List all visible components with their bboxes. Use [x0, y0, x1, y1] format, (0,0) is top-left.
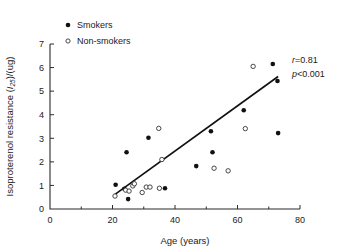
data-point-non-smoker	[113, 194, 117, 198]
y-tick-label: 0	[39, 204, 44, 214]
y-axis-title: Isoproterenol resistance (I25)/(ug)	[4, 57, 16, 197]
y-axis-title-main: Isoproterenol resistance (	[4, 88, 15, 196]
data-point-smoker	[126, 197, 131, 202]
y-axis-title-tail: )/(ug)	[4, 57, 15, 80]
y-tick-label: 4	[39, 110, 44, 120]
y-tick-label: 1	[39, 181, 44, 191]
regression-line	[115, 77, 278, 195]
statistics-annotation: r=0.81p<0.001	[291, 55, 325, 79]
legend: SmokersNon-smokers	[66, 20, 131, 46]
data-point-non-smoker	[148, 185, 152, 189]
x-tick-label: 20	[107, 215, 117, 225]
data-point-smoker	[113, 182, 118, 187]
legend-label: Smokers	[77, 20, 113, 30]
x-tick-label: 0	[47, 215, 52, 225]
annotation-value: =0.81	[295, 55, 318, 65]
data-point-smoker	[271, 62, 276, 67]
data-point-non-smoker	[243, 126, 247, 130]
data-point-non-smoker	[140, 190, 144, 194]
data-point-smoker	[276, 131, 281, 136]
data-point-smoker	[209, 129, 214, 134]
data-point-smoker	[146, 136, 151, 141]
x-axis-title: Age (years)	[160, 235, 209, 246]
x-tick-label: 40	[170, 215, 180, 225]
data-point-smoker	[124, 150, 129, 155]
data-point-smoker	[194, 164, 199, 169]
data-point-non-smoker	[226, 169, 230, 173]
x-tick-label: 80	[295, 215, 305, 225]
data-point-smoker	[210, 150, 215, 155]
data-point-smoker	[163, 186, 168, 191]
data-point-non-smoker	[157, 126, 161, 130]
data-point-non-smoker	[251, 64, 255, 68]
y-tick-label: 2	[39, 157, 44, 167]
x-tick-label: 60	[232, 215, 242, 225]
scatter-plot: 02040608001234567 SmokersNon-smokers r=0…	[0, 0, 341, 252]
annotation-p-value: p<0.001	[291, 69, 325, 79]
annotation-value: <0.001	[297, 69, 325, 79]
legend-marker-non-smokers	[66, 39, 70, 43]
data-point-non-smoker	[127, 189, 131, 193]
data-points	[113, 62, 281, 202]
data-point-smoker	[275, 79, 280, 84]
y-tick-label: 7	[39, 39, 44, 49]
data-point-non-smoker	[157, 186, 161, 190]
data-point-non-smoker	[212, 166, 216, 170]
y-tick-label: 5	[39, 86, 44, 96]
y-tick-label: 3	[39, 134, 44, 144]
data-point-smoker	[241, 108, 246, 113]
y-tick-label: 6	[39, 63, 44, 73]
figure-container: 02040608001234567 SmokersNon-smokers r=0…	[0, 0, 341, 252]
regression-line-path	[115, 77, 278, 195]
legend-marker-smokers	[66, 23, 71, 28]
axes: 02040608001234567	[39, 39, 305, 225]
annotation-r-value: r=0.81	[292, 55, 318, 65]
data-point-non-smoker	[160, 157, 164, 161]
axis-lines	[50, 44, 300, 209]
data-point-non-smoker	[132, 182, 136, 186]
legend-label: Non-smokers	[77, 36, 131, 46]
